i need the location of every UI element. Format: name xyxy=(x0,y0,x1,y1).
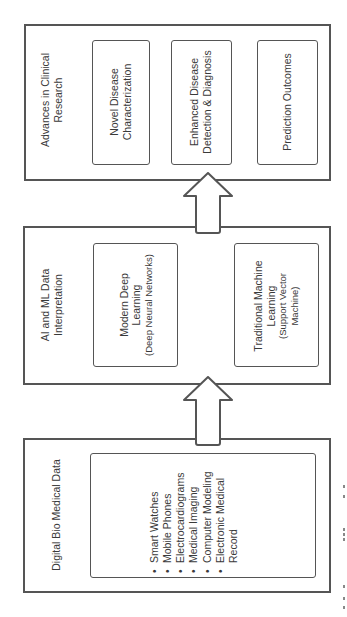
up-arrow-icon xyxy=(180,376,236,440)
caption-fragment xyxy=(343,538,345,541)
data-sources-list: Smart Watches Mobile Phones Electrocardi… xyxy=(148,457,258,573)
label-novel-disease-characterization: Novel Disease Characterization xyxy=(99,40,143,164)
list-item: Electronic Medical xyxy=(214,457,227,573)
list-item: Computer Modeling xyxy=(201,457,214,573)
caption-fragment xyxy=(343,485,345,488)
list-item: Mobile Phones xyxy=(161,457,174,573)
caption-fragment xyxy=(343,597,345,600)
list-item: Smart Watches xyxy=(148,457,161,573)
list-item: Record xyxy=(227,457,240,573)
diagram-canvas: Advances in Clinical Research Novel Dise… xyxy=(0,0,347,617)
stage-title-advances-clinical-research: Advances in Clinical Research xyxy=(32,35,72,165)
list-item: Electrocardiograms xyxy=(174,457,187,573)
caption-fragment xyxy=(343,533,345,536)
arrow-stem-overlay xyxy=(195,434,221,446)
caption-fragment xyxy=(343,585,345,588)
label-modern-deep-learning: Modern Deep Learning (Deep Neural Networ… xyxy=(111,243,161,367)
caption-fragment xyxy=(343,495,345,498)
stage-title-digital-bio-medical-data: Digital Bio Medical Data xyxy=(46,450,66,580)
stage-title-ai-ml-data-interpretation: AI and ML Data Interpretation xyxy=(32,240,72,370)
caption-fragment xyxy=(343,606,345,609)
list-item: Medical Imaging xyxy=(187,457,200,573)
label-traditional-machine-learning: Traditional Machine Learning (Support Ve… xyxy=(247,244,305,368)
label-enhanced-disease-detection-diagnosis: Enhanced Disease Detection & Diagnosis xyxy=(179,40,223,164)
caption-fragment xyxy=(343,528,345,531)
label-prediction-outcomes: Prediction Outcomes xyxy=(273,40,301,164)
arrow-stem-overlay xyxy=(195,222,221,234)
